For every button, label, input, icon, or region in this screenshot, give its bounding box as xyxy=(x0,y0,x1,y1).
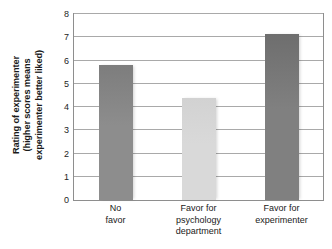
x-tick-line: Favor for xyxy=(255,203,308,215)
x-tick-label-favor-for-experimenter: Favor for experimenter xyxy=(255,203,308,226)
plot-area xyxy=(73,13,324,201)
bars-group xyxy=(74,14,323,200)
y-axis-tick-labels: 8 7 6 5 4 3 2 1 0 xyxy=(56,0,72,210)
y-axis-title-line-1: Rating of experimenter xyxy=(11,50,22,160)
y-tick-label: 3 xyxy=(64,125,69,135)
y-axis-title-line-2: (higher scores means xyxy=(22,50,33,160)
bar-no-favor[interactable] xyxy=(99,65,133,200)
x-tick-line: experimenter xyxy=(255,215,308,227)
x-tick-line: No xyxy=(105,203,125,215)
bar-favor-for-psychology-department[interactable] xyxy=(182,98,216,200)
x-axis-tick-labels: No favor Favor for psychology department… xyxy=(73,203,324,249)
y-tick-label: 0 xyxy=(64,195,69,205)
x-tick-line: department xyxy=(176,226,222,238)
x-tick-line: Favor for xyxy=(176,203,222,215)
y-axis-title: Rating of experimenter (higher scores me… xyxy=(0,0,56,210)
y-tick-label: 6 xyxy=(64,56,69,66)
x-tick-line: favor xyxy=(105,215,125,227)
bar-chart-figure: Rating of experimenter (higher scores me… xyxy=(0,0,332,249)
x-tick-label-no-favor: No favor xyxy=(105,203,125,226)
y-tick-label: 8 xyxy=(64,9,69,19)
y-axis-title-line-3: experimenter better liked) xyxy=(34,50,45,160)
y-tick-label: 1 xyxy=(64,172,69,182)
y-tick-label: 5 xyxy=(64,79,69,89)
y-tick-label: 4 xyxy=(64,102,69,112)
y-tick-label: 7 xyxy=(64,32,69,42)
x-tick-line: psychology xyxy=(176,215,222,227)
bar-favor-for-experimenter[interactable] xyxy=(265,34,299,200)
x-tick-label-favor-for-psychology-department: Favor for psychology department xyxy=(176,203,222,238)
y-tick-label: 2 xyxy=(64,149,69,159)
